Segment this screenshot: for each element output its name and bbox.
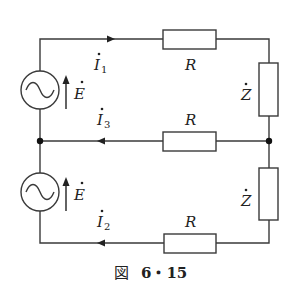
impedance-bottom (259, 168, 278, 220)
phasor-dot (81, 182, 84, 185)
current-i3-label: I (96, 111, 104, 129)
wires (40, 39, 269, 243)
ac-source-bottom (21, 173, 59, 211)
resistor-middle-label: R (184, 111, 196, 129)
phasor-dot (81, 81, 84, 84)
phasor-dot (101, 108, 104, 111)
junction-left (37, 138, 43, 144)
current-i2-label: I (96, 213, 104, 231)
top-right-wire (216, 39, 269, 63)
impedance-bottom-label: Z (240, 192, 252, 210)
arrow-right-icon (107, 36, 115, 43)
phasor-dot (245, 189, 248, 192)
current-i1-label: I (93, 56, 101, 74)
junction-right (266, 138, 272, 144)
resistor-top-label: R (184, 56, 196, 74)
resistor-top (163, 30, 216, 49)
phasor-dot (245, 83, 248, 86)
circuit-diagram: E E I 1 I 3 I 2 R R R Z Z 図 6・15 (0, 0, 297, 300)
figure-caption-prefix: 図 (114, 264, 129, 282)
source-top-label: E (73, 85, 85, 103)
current-i3-subscript: 3 (104, 119, 110, 130)
impedance-top-label: Z (240, 86, 252, 104)
resistor-middle (163, 132, 216, 151)
impedance-top (259, 63, 278, 116)
phasor-dot (98, 53, 101, 56)
phasor-dot (101, 210, 104, 213)
current-i1-subscript: 1 (101, 64, 107, 75)
ac-source-top (21, 71, 59, 109)
emf-arrow-top-icon (63, 75, 70, 109)
emf-arrow-bottom-icon (63, 177, 70, 211)
source-bottom-label: E (73, 186, 85, 204)
figure-caption-number: 6・15 (141, 264, 187, 282)
resistor-bottom (164, 234, 216, 253)
bottom-right-wire (216, 220, 269, 243)
current-i2-subscript: 2 (104, 221, 110, 232)
arrow-left-icon (97, 138, 105, 145)
resistor-bottom-label: R (184, 213, 196, 231)
arrow-left-icon (97, 240, 105, 247)
